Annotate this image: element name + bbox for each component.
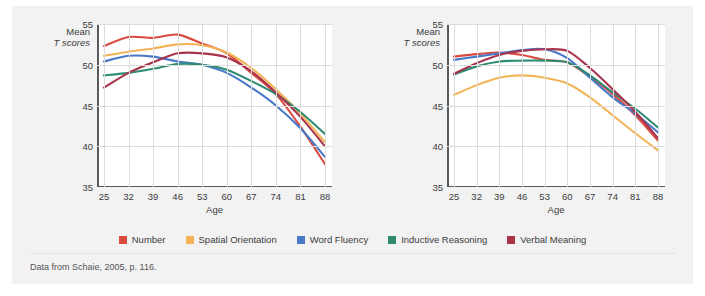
plot-area-men: 3540455055 25323946536067748188 — [97, 24, 332, 187]
y-tick-label: 45 — [82, 100, 93, 111]
y-tick-label: 35 — [432, 182, 443, 193]
legend-swatch-icon — [507, 236, 515, 244]
x-tick-label: 32 — [123, 191, 134, 202]
legend-label: Number — [132, 234, 166, 245]
gridline-horizontal — [97, 24, 332, 25]
series-line-inductive-reasoning — [104, 64, 325, 134]
x-tick-label: 46 — [172, 191, 183, 202]
gridline-horizontal — [97, 106, 332, 107]
x-tick-label: 53 — [539, 191, 550, 202]
y-tick-label: 40 — [432, 141, 443, 152]
legend-swatch-icon — [119, 236, 127, 244]
legend-label: Verbal Meaning — [520, 234, 586, 245]
y-tick-label: 50 — [432, 59, 443, 70]
legend-item-number: Number — [119, 234, 166, 245]
series-line-inductive-reasoning — [454, 61, 658, 128]
x-tick-label: 88 — [320, 191, 331, 202]
y-tick-labels-men: 3540455055 — [71, 24, 93, 187]
x-tick-label: 88 — [653, 191, 664, 202]
y-tick-label: 40 — [82, 141, 93, 152]
legend-swatch-icon — [186, 236, 194, 244]
series-line-verbal-meaning — [454, 49, 658, 138]
y-tick-label: 45 — [432, 100, 443, 111]
series-line-spatial-orientation — [104, 44, 325, 142]
gridline-horizontal — [97, 146, 332, 147]
x-tick-label: 39 — [148, 191, 159, 202]
x-tick-label: 60 — [221, 191, 232, 202]
chart-legend: NumberSpatial OrientationWord FluencyInd… — [12, 234, 693, 245]
gridline-horizontal — [447, 65, 665, 66]
x-tick-label: 32 — [471, 191, 482, 202]
chart-panel-women: Mean T scores Women 3540455055 253239465… — [380, 6, 690, 228]
legend-swatch-icon — [388, 236, 396, 244]
figure-card: Mean T scores Men 3540455055 25323946536… — [12, 6, 693, 284]
x-tick-label: 81 — [295, 191, 306, 202]
legend-swatch-icon — [297, 236, 305, 244]
plot-area-women: 3540455055 25323946536067748188 — [447, 24, 665, 187]
x-axis-label-men: Age — [97, 204, 332, 215]
source-note: Data from Schaie, 2005, p. 116. — [30, 262, 156, 272]
x-tick-label: 67 — [585, 191, 596, 202]
x-tick-label: 25 — [449, 191, 460, 202]
y-tick-label: 35 — [82, 182, 93, 193]
x-tick-label: 53 — [197, 191, 208, 202]
legend-item-word-fluency: Word Fluency — [297, 234, 368, 245]
x-axis-label-women: Age — [447, 204, 665, 215]
gridline-horizontal — [97, 65, 332, 66]
x-tick-label: 25 — [99, 191, 110, 202]
x-tick-label: 74 — [607, 191, 618, 202]
legend-label: Word Fluency — [310, 234, 368, 245]
x-tick-label: 39 — [494, 191, 505, 202]
legend-item-verbal-meaning: Verbal Meaning — [507, 234, 586, 245]
x-tick-label: 46 — [517, 191, 528, 202]
gridline-horizontal — [447, 106, 665, 107]
divider — [30, 253, 675, 254]
y-tick-label: 55 — [432, 19, 443, 30]
x-tick-label: 81 — [630, 191, 641, 202]
legend-label: Inductive Reasoning — [401, 234, 487, 245]
x-tick-label: 60 — [562, 191, 573, 202]
x-tick-label: 67 — [246, 191, 257, 202]
gridline-horizontal — [447, 24, 665, 25]
y-tick-label: 55 — [82, 19, 93, 30]
y-tick-label: 50 — [82, 59, 93, 70]
legend-label: Spatial Orientation — [199, 234, 277, 245]
legend-item-spatial-orientation: Spatial Orientation — [186, 234, 277, 245]
legend-item-inductive-reasoning: Inductive Reasoning — [388, 234, 487, 245]
x-tick-label: 74 — [271, 191, 282, 202]
series-line-spatial-orientation — [454, 75, 658, 150]
y-tick-labels-women: 3540455055 — [421, 24, 443, 187]
chart-panel-men: Mean T scores Men 3540455055 25323946536… — [30, 6, 360, 228]
gridline-horizontal — [447, 146, 665, 147]
